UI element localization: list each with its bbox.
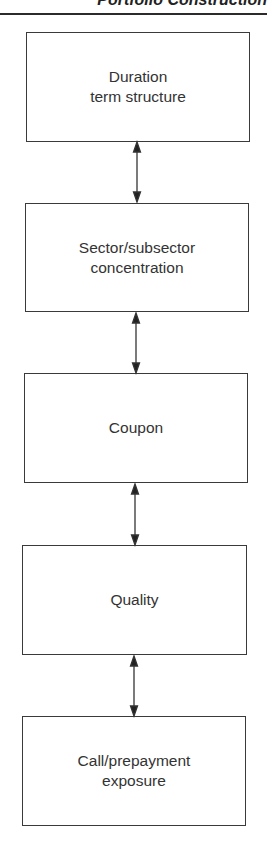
double-arrow-icon: [132, 484, 139, 545]
double-arrow-icon: [131, 656, 138, 716]
double-arrow-icon: [133, 313, 140, 373]
double-arrow-icon: [134, 142, 141, 202]
connector-arrows: [0, 0, 267, 848]
